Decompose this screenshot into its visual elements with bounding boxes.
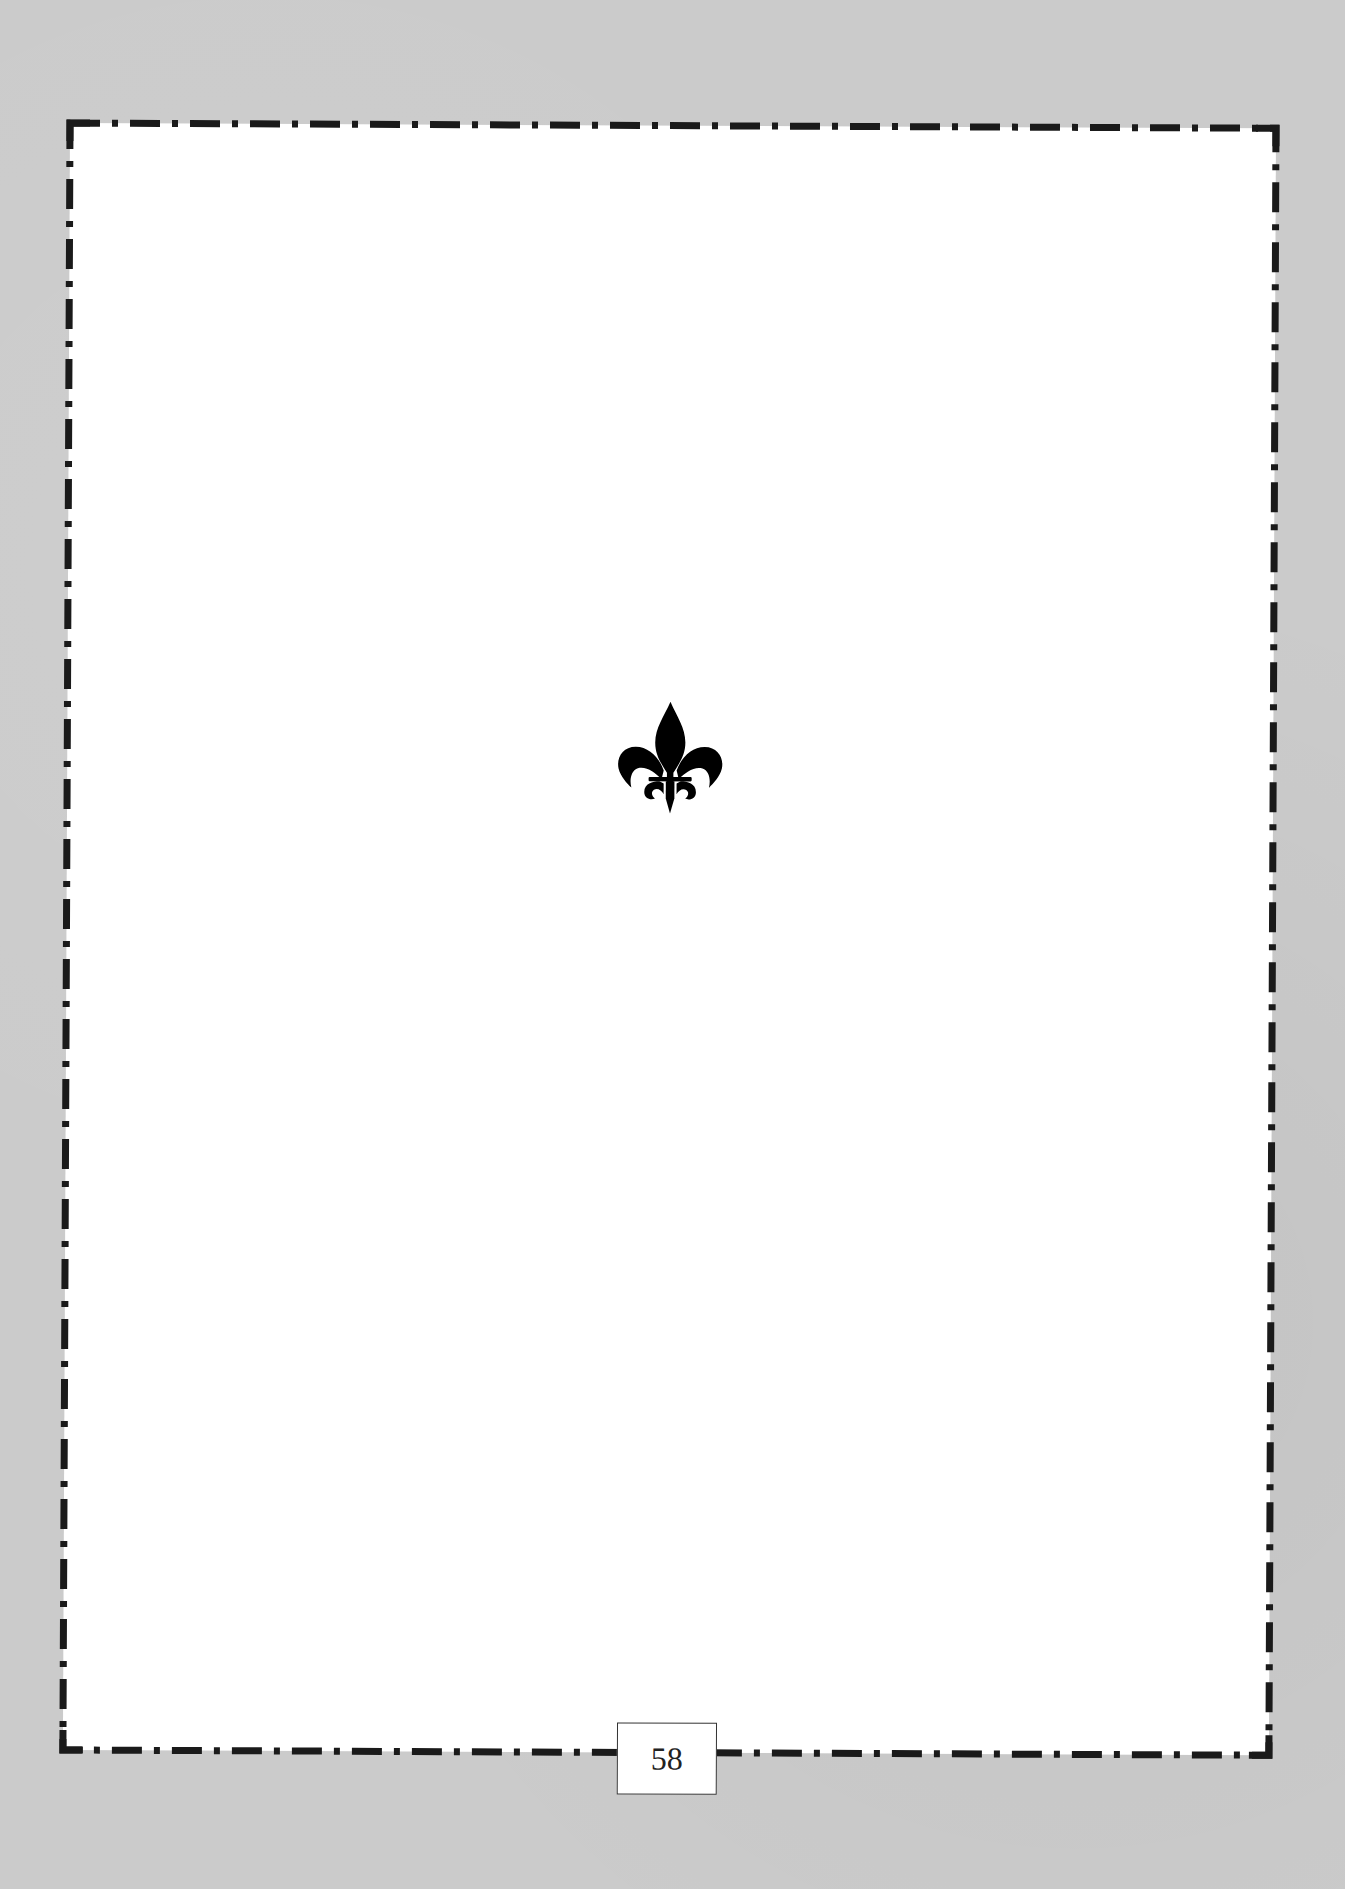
fleur-de-lis-icon [615,701,725,813]
page-number: 58 [617,1722,717,1794]
book-page: 58 [63,123,1276,1755]
dash-dot-border [59,119,1280,1759]
